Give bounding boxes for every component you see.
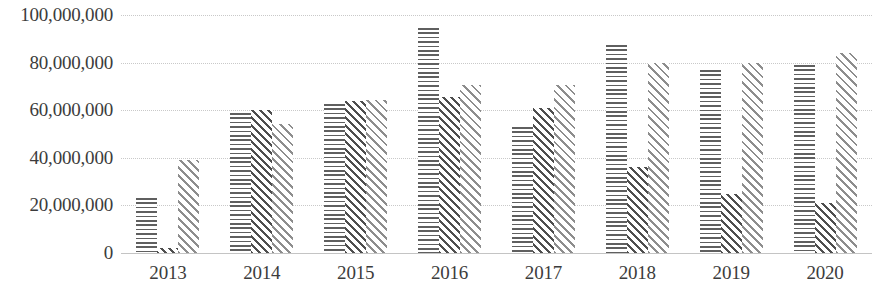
bar [366, 100, 387, 254]
x-tick-label: 2017 [497, 262, 591, 284]
bar [418, 28, 439, 253]
bar-group [497, 15, 591, 253]
bar-group [403, 15, 497, 253]
x-tick-group: 2020 [778, 262, 872, 292]
bar [460, 85, 481, 253]
y-axis: 100,000,00080,000,00060,000,00040,000,00… [0, 0, 113, 301]
bar-group [215, 15, 309, 253]
x-tick-label: 2015 [309, 262, 403, 284]
axis-baseline [121, 253, 872, 254]
x-tick-label: 2016 [403, 262, 497, 284]
x-tick-group: 2017 [497, 262, 591, 292]
bar-group [121, 15, 215, 253]
y-tick-label: 40,000,000 [0, 148, 113, 167]
x-tick-group: 2013 [121, 262, 215, 292]
bar [648, 63, 669, 253]
y-tick-label: 60,000,000 [0, 100, 113, 119]
bar-group [309, 15, 403, 253]
bar [251, 110, 272, 253]
bar-chart: 100,000,00080,000,00060,000,00040,000,00… [0, 0, 880, 301]
x-tick-group: 2014 [215, 262, 309, 292]
bar [178, 160, 199, 253]
bar [836, 53, 857, 253]
x-tick-label: 2014 [215, 262, 309, 284]
bars-layer [121, 15, 872, 253]
x-axis: 20132014201520162017201820192020 [121, 262, 872, 292]
y-tick-label: 100,000,000 [0, 5, 113, 24]
bar [815, 203, 836, 253]
bar [324, 104, 345, 253]
bar-group [778, 15, 872, 253]
bar [345, 101, 366, 253]
bar [272, 124, 293, 253]
y-tick-label: 0 [0, 243, 113, 262]
bar-group [684, 15, 778, 253]
bar [554, 85, 575, 253]
bar [439, 97, 460, 253]
x-tick-label: 2013 [121, 262, 215, 284]
bar [606, 45, 627, 253]
bar [794, 65, 815, 253]
bar [742, 63, 763, 253]
x-tick-label: 2019 [684, 262, 778, 284]
bar [136, 198, 157, 253]
x-tick-group: 2019 [684, 262, 778, 292]
plot-area [121, 15, 872, 253]
bar [700, 70, 721, 253]
x-tick-group: 2018 [590, 262, 684, 292]
bar [627, 167, 648, 253]
bar [230, 113, 251, 253]
bar-group [590, 15, 684, 253]
x-tick-label: 2020 [778, 262, 872, 284]
x-tick-label: 2018 [590, 262, 684, 284]
bar [721, 194, 742, 254]
bar [512, 127, 533, 253]
y-tick-label: 20,000,000 [0, 195, 113, 214]
x-tick-group: 2015 [309, 262, 403, 292]
bar [533, 108, 554, 253]
y-tick-label: 80,000,000 [0, 53, 113, 72]
x-tick-group: 2016 [403, 262, 497, 292]
bar [157, 248, 178, 253]
